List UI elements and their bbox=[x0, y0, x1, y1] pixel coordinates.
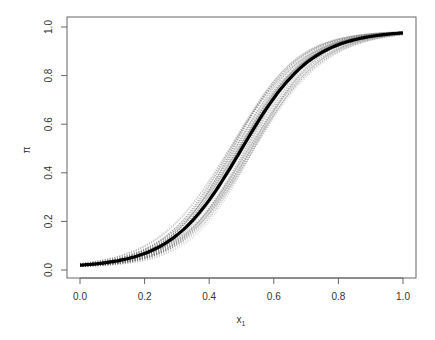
x-axis: 0.00.20.40.60.81.0 bbox=[73, 278, 410, 302]
y-tick-label: 0.8 bbox=[43, 68, 54, 82]
y-tick-label: 0.6 bbox=[43, 117, 54, 131]
x-tick-label: 0.6 bbox=[267, 291, 281, 302]
x-axis-title: x1 bbox=[237, 314, 246, 327]
y-tick-label: 0.2 bbox=[43, 214, 54, 228]
y-axis-title: π bbox=[21, 146, 32, 153]
central-curve bbox=[80, 33, 403, 265]
x-tick-label: 0.8 bbox=[331, 291, 345, 302]
y-axis: 0.00.20.40.60.81.0 bbox=[43, 20, 67, 277]
x-tick-label: 1.0 bbox=[396, 291, 410, 302]
y-tick-label: 0.4 bbox=[43, 165, 54, 179]
y-tick-label: 0.0 bbox=[43, 263, 54, 277]
x-tick-label: 0.2 bbox=[138, 291, 152, 302]
x-tick-label: 0.0 bbox=[73, 291, 87, 302]
x-tick-label: 0.4 bbox=[202, 291, 216, 302]
y-tick-label: 1.0 bbox=[43, 20, 54, 34]
logistic-curves-chart: 0.00.20.40.60.81.0 0.00.20.40.60.81.0 x1… bbox=[0, 0, 435, 340]
